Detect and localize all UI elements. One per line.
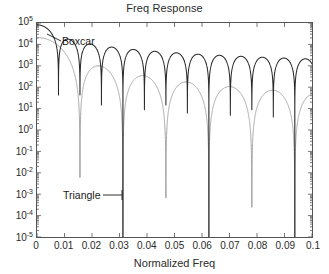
y-tick-label: 10-4 — [16, 211, 33, 221]
curves-svg — [37, 23, 312, 237]
y-tick-exponent: -3 — [27, 187, 33, 194]
y-tick-mantissa: 10 — [16, 210, 27, 221]
x-tick-label: 0.02 — [82, 241, 101, 251]
x-axis-title: Normalized Freq — [36, 257, 313, 269]
x-tick-label: 0.05 — [165, 241, 184, 251]
x-tick-label: 0.1 — [306, 241, 320, 251]
y-tick-label: 105 — [18, 17, 33, 27]
y-tick-exponent: -4 — [27, 209, 33, 216]
y-tick-exponent: -1 — [27, 144, 33, 151]
y-tick-exponent: 4 — [29, 36, 33, 43]
x-tick-label: 0.07 — [220, 241, 239, 251]
y-tick-exponent: 5 — [29, 15, 33, 22]
y-tick-mantissa: 10 — [18, 102, 29, 113]
series-line-boxcar — [37, 25, 312, 237]
y-tick-mantissa: 10 — [16, 232, 27, 243]
y-tick-mantissa: 10 — [18, 16, 29, 27]
x-tick-label: 0.04 — [137, 241, 156, 251]
y-tick-label: 10-2 — [16, 168, 33, 178]
y-tick-label: 10-1 — [16, 147, 33, 157]
x-tick-label: 0.01 — [54, 241, 73, 251]
y-tick-exponent: 0 — [29, 123, 33, 130]
y-tick-label: 104 — [18, 39, 33, 49]
x-tick-label: 0.08 — [248, 241, 267, 251]
x-tick-label: 0.09 — [276, 241, 295, 251]
y-tick-label: 10-3 — [16, 190, 33, 200]
chart-screenshot: Freq Response 10510410310210110010-110-2… — [0, 0, 329, 274]
y-tick-mantissa: 10 — [16, 146, 27, 157]
y-tick-mantissa: 10 — [18, 59, 29, 70]
y-tick-label: 100 — [18, 125, 33, 135]
annotation-triangle-text: Triangle — [63, 189, 101, 201]
annotation-boxcar: Boxcar — [62, 36, 95, 47]
y-tick-exponent: 1 — [29, 101, 33, 108]
y-tick-exponent: -2 — [27, 166, 33, 173]
y-tick-mantissa: 10 — [18, 38, 29, 49]
y-tick-label: 101 — [18, 103, 33, 113]
y-tick-mantissa: 10 — [18, 81, 29, 92]
annotation-boxcar-text: Boxcar — [62, 35, 95, 47]
x-tick-label: 0 — [33, 241, 39, 251]
y-tick-label: 103 — [18, 60, 33, 70]
y-tick-label: 10-5 — [16, 233, 33, 243]
y-tick-mantissa: 10 — [16, 189, 27, 200]
x-tick-label: 0.06 — [192, 241, 211, 251]
annotation-triangle: Triangle — [63, 190, 101, 201]
y-tick-mantissa: 10 — [18, 124, 29, 135]
y-tick-exponent: 3 — [29, 58, 33, 65]
page-title: Freq Response — [0, 2, 329, 14]
y-tick-exponent: -5 — [27, 231, 33, 238]
y-tick-label: 102 — [18, 82, 33, 92]
y-tick-exponent: 2 — [29, 79, 33, 86]
x-tick-label: 0.03 — [109, 241, 128, 251]
y-axis-tick-labels: 10510410310210110010-110-210-310-410-5 — [0, 0, 33, 274]
y-tick-mantissa: 10 — [16, 167, 27, 178]
plot-area — [36, 22, 313, 238]
